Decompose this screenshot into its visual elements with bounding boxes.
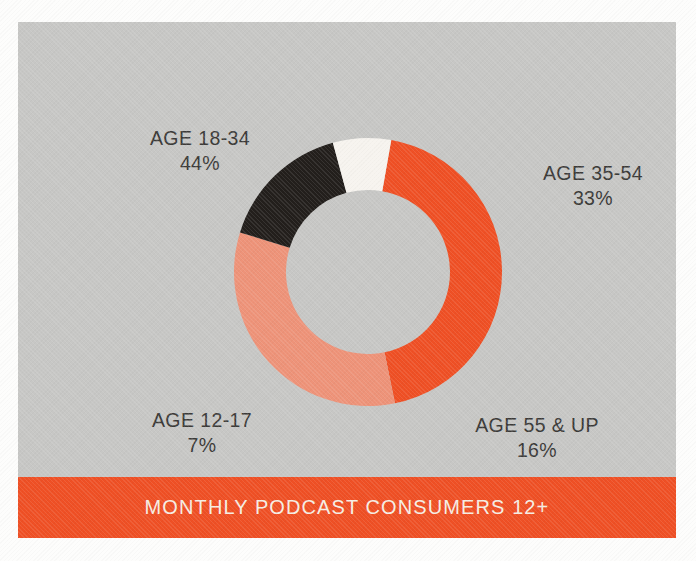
slice-label-name: AGE 12-17 [152,409,252,431]
chart-title-banner: MONTHLY PODCAST CONSUMERS 12+ [18,477,676,538]
chart-panel: AGE 18-34 44% AGE 35-54 33% AGE 12-17 7%… [18,22,676,477]
slice-label-name: AGE 55 & UP [475,414,599,436]
slice-label-age-12-17: AGE 12-17 7% [122,408,282,458]
slice-label-age-35-54: AGE 35-54 33% [498,161,688,211]
slice-label-value: 16% [442,438,632,463]
slice-label-value: 33% [498,186,688,211]
donut-chart-svg [232,136,504,408]
slice-label-name: AGE 35-54 [543,162,643,184]
slice-label-value: 44% [110,151,290,176]
slice-label-age-18-34: AGE 18-34 44% [110,126,290,176]
slice-label-age-55-up: AGE 55 & UP 16% [442,413,632,463]
chart-title: MONTHLY PODCAST CONSUMERS 12+ [145,496,550,519]
donut-slice-group [234,138,502,406]
slice-label-value: 7% [122,433,282,458]
slice-label-name: AGE 18-34 [150,127,250,149]
donut-slice [234,232,395,406]
donut-slice [382,140,502,403]
donut-chart [232,136,504,408]
